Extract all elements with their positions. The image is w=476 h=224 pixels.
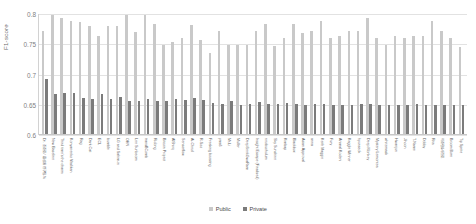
bar-group <box>290 14 299 135</box>
x-axis-tick-label: Animal Kodeni <box>338 138 342 161</box>
bar-private <box>360 104 363 135</box>
bar-private <box>258 102 261 135</box>
bar-group <box>170 14 179 135</box>
x-axis-label-cell: Keith Maggie <box>317 137 326 203</box>
bar-private <box>193 98 196 136</box>
x-axis-tick-label: Third time's the charm <box>60 138 64 173</box>
x-axis-label-cell: LG and Sahim-in <box>113 137 122 203</box>
legend-label-public: Public <box>216 206 231 212</box>
bar-group <box>216 14 225 135</box>
bar-group <box>235 14 244 135</box>
bar-private <box>101 94 104 135</box>
x-axis-tick-label: neobuchulum <box>264 138 268 160</box>
x-axis-label-cell: ECL <box>95 137 104 203</box>
bar-private <box>82 98 85 135</box>
bar-group <box>429 14 438 135</box>
bar-group <box>59 14 68 135</box>
y-axis-tick-label: 0.6 <box>27 132 36 139</box>
y-axis-tick-label: 0.75 <box>24 41 36 48</box>
x-axis-label-cell: Hwanjun <box>391 137 400 203</box>
bar-private <box>443 105 446 135</box>
bar-group <box>364 14 373 135</box>
bar-group <box>207 14 216 135</box>
bar-group <box>142 14 151 135</box>
bar-group <box>133 14 142 135</box>
x-axis-tick-label: AlShirq <box>171 138 175 150</box>
x-axis-tick-label: Dark Cat <box>88 138 92 152</box>
bar-group <box>420 14 429 135</box>
x-axis-label-cell: Ai-Cheol <box>187 137 196 203</box>
x-axis-tick-label: Rita <box>431 138 435 144</box>
x-axis-tick-label: Dobby <box>422 138 426 148</box>
y-axis-tick-label: 0.8 <box>27 11 36 18</box>
bar-private <box>286 103 289 135</box>
x-axis-label-cell: Kimbap <box>280 137 289 203</box>
x-axis-label-cell: Broom Born <box>447 137 456 203</box>
x-axis-label-cell: Asian Approval <box>298 137 307 203</box>
x-axis-tick-label: anna <box>310 138 314 146</box>
bar-group <box>346 14 355 135</box>
x-axis-label-cell: Bitcoin Project <box>159 137 168 203</box>
bar-private <box>249 104 252 135</box>
legend-item-private: Private <box>243 206 267 212</box>
x-axis-label-cell: Konyanenko Vitalikan <box>67 137 76 203</box>
x-axis-label-cell: Third time's the charm <box>58 137 67 203</box>
bar-group <box>86 14 95 135</box>
bar-private <box>332 105 335 135</box>
y-axis-title: F1-score <box>2 24 9 50</box>
bar-private <box>323 104 326 135</box>
x-axis-label-cell: neobuchulum <box>261 137 270 203</box>
bar-private <box>119 97 122 135</box>
bar-group <box>448 14 457 135</box>
bar-private <box>462 105 465 135</box>
x-axis-label-cell: Insight Escape (Finalised) <box>252 137 261 203</box>
bar-group <box>244 14 253 135</box>
x-axis-tick-label: T-Name <box>412 138 416 151</box>
x-axis-label-cell: Rita <box>428 137 437 203</box>
bar-private <box>240 105 243 135</box>
bar-private <box>397 105 400 135</box>
x-axis-label-cell: OHN <box>122 137 131 203</box>
x-axis-labels: Dr. 조준호 / 황성원 연구팀-%New BaselineThird tim… <box>38 137 466 203</box>
bar-group <box>272 14 281 135</box>
bar-private <box>175 99 178 135</box>
x-axis-tick-label: Ridong <box>153 138 157 149</box>
bar-group <box>318 14 327 135</box>
x-axis-label-cell: anna <box>308 137 317 203</box>
bar-private <box>369 104 372 135</box>
bar-group <box>438 14 447 135</box>
x-axis-label-cell: R-Soo <box>197 137 206 203</box>
x-axis-tick-label: Asian Approval <box>301 138 305 162</box>
x-axis-tick-label: Blackbox <box>292 138 296 153</box>
x-axis-label-cell: AlShirq <box>169 137 178 203</box>
x-axis-tick-label: Konyanenko Vitalikan <box>69 138 73 173</box>
x-axis-tick-label: Keith Maggie <box>320 138 324 159</box>
bar-private <box>416 104 419 135</box>
x-axis-label-cell: Tip Sprite <box>456 137 465 203</box>
bar-private <box>165 101 168 135</box>
y-axis-tick-label: 0.7 <box>27 71 36 78</box>
x-axis-tick-label: New Baseline <box>51 138 55 160</box>
bar-group <box>179 14 188 135</box>
bar-private <box>202 100 205 135</box>
bar-private <box>138 101 141 135</box>
bar-private <box>267 104 270 135</box>
gridline <box>39 135 467 136</box>
x-axis-label-cell: Lee Sunbeom <box>132 137 141 203</box>
bar-private <box>406 105 409 135</box>
bar-private <box>156 101 159 135</box>
x-axis-label-cell: Mystery Lemontea <box>373 137 382 203</box>
x-axis-tick-label: transBComb <box>144 138 148 158</box>
bar-private <box>453 105 456 135</box>
bar-chart: F1-score 0.60.650.70.750.8 Dr. 조준호 / 황성원… <box>0 0 476 224</box>
x-axis-label-cell: Jihoon <box>400 137 409 203</box>
x-axis-tick-label: Mr.Li <box>227 138 231 146</box>
bar-private <box>184 100 187 135</box>
x-axis-tick-label: Ai-Cheol <box>190 138 194 152</box>
x-axis-label-cell: Muller <box>234 137 243 203</box>
bar-private <box>91 99 94 135</box>
x-axis-label-cell: bumble <box>104 137 113 203</box>
x-axis-tick-label: Mystery Lemontea <box>375 138 379 168</box>
bar-group <box>262 14 271 135</box>
bar-private <box>147 99 150 135</box>
